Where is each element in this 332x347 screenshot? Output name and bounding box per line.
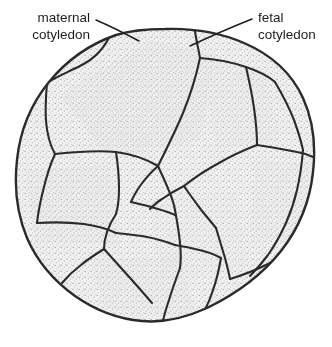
placenta-diagram: maternal cotyledon fetal cotyledon bbox=[0, 0, 332, 347]
fetal-cotyledon-label: fetal cotyledon bbox=[258, 10, 316, 42]
maternal-cotyledon-label: maternal cotyledon bbox=[32, 10, 90, 42]
fetal-label-line1: fetal bbox=[258, 10, 284, 25]
fetal-label-line2: cotyledon bbox=[258, 27, 316, 42]
maternal-label-line1: maternal bbox=[37, 10, 90, 25]
placenta-illustration: maternal cotyledon fetal cotyledon bbox=[0, 0, 332, 347]
placenta-disc-body bbox=[0, 0, 332, 347]
maternal-label-line2: cotyledon bbox=[32, 27, 90, 42]
